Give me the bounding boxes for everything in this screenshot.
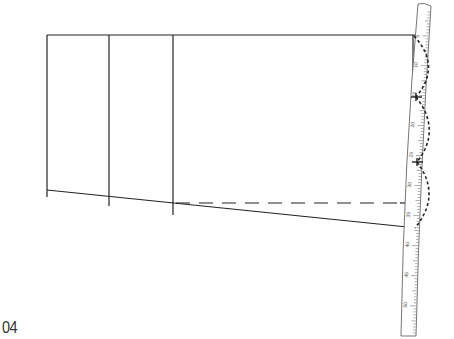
ruler-body (401, 3, 431, 336)
svg-text:45: 45 (403, 272, 409, 278)
svg-text:20: 20 (409, 121, 415, 127)
slanted-hem-line (47, 190, 417, 228)
svg-text:25: 25 (407, 151, 413, 157)
svg-text:30: 30 (406, 181, 412, 187)
step-number-label: 04 (2, 318, 17, 338)
curved-ruler: 5101520253035404550 (401, 3, 431, 336)
svg-text:40: 40 (404, 241, 410, 247)
svg-text:50: 50 (402, 302, 408, 308)
svg-text:10: 10 (412, 62, 418, 68)
pattern-block (47, 35, 417, 228)
svg-text:35: 35 (405, 211, 411, 217)
pattern-diagram: 5101520253035404550 (0, 0, 454, 339)
